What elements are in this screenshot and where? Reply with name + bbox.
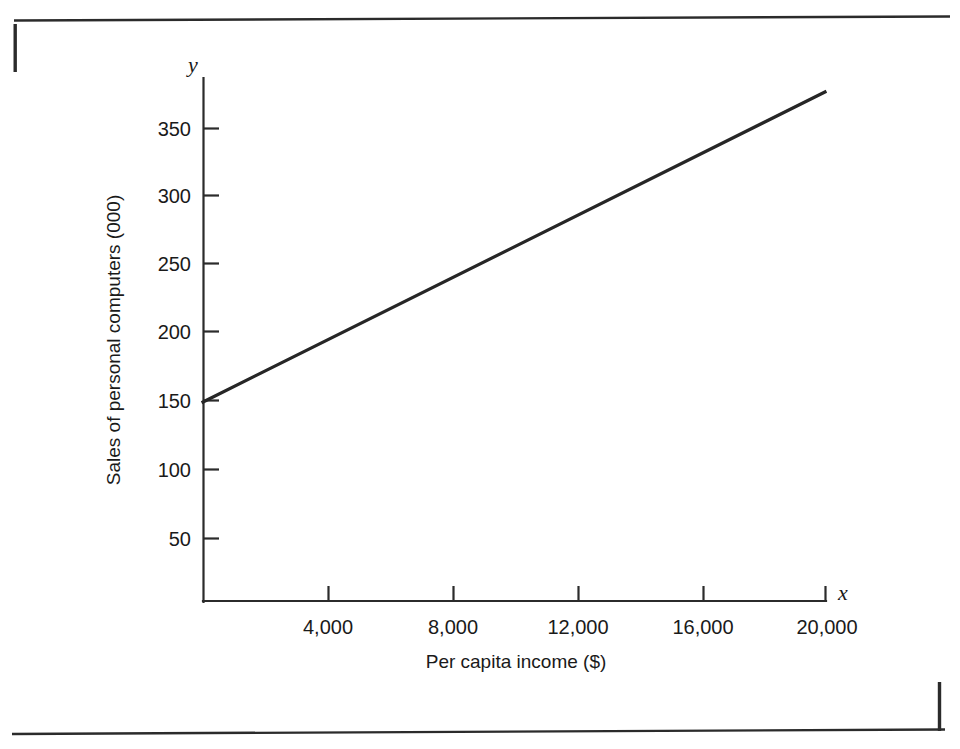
x-axis-symbol: x xyxy=(837,580,848,605)
x-tick-label-4000: 4,000 xyxy=(303,616,353,638)
y-tick-label-50: 50 xyxy=(169,528,191,550)
x-tick-label-8000: 8,000 xyxy=(428,616,478,638)
x-tick-label-16000: 16,000 xyxy=(672,616,733,638)
x-axis-title: Per capita income ($) xyxy=(426,651,607,672)
y-tick-label-250: 250 xyxy=(158,253,191,275)
bottom-divider-rule xyxy=(12,682,945,734)
y-tick-label-100: 100 xyxy=(158,459,191,481)
y-tick-labels: 350 300 250 200 150 100 50 xyxy=(158,118,191,550)
y-axis-symbol: y xyxy=(186,52,198,77)
line-chart: 350 300 250 200 150 100 50 4,000 8,000 1… xyxy=(0,0,960,749)
x-tick-label-12000: 12,000 xyxy=(547,616,608,638)
series-sales-of-personal-computers xyxy=(203,92,825,402)
y-tick-marks xyxy=(204,129,219,539)
x-tick-labels: 4,000 8,000 12,000 16,000 20,000 xyxy=(303,616,858,638)
figure-root: 350 300 250 200 150 100 50 4,000 8,000 1… xyxy=(0,0,960,749)
top-divider-rule xyxy=(14,17,950,73)
y-tick-label-350: 350 xyxy=(158,118,191,140)
y-tick-label-150: 150 xyxy=(158,390,191,412)
y-tick-label-200: 200 xyxy=(158,321,191,343)
x-tick-label-20000: 20,000 xyxy=(796,616,857,638)
x-tick-marks xyxy=(329,586,826,600)
y-tick-label-300: 300 xyxy=(158,185,191,207)
y-axis-title: Sales of personal computers (000) xyxy=(103,195,124,485)
